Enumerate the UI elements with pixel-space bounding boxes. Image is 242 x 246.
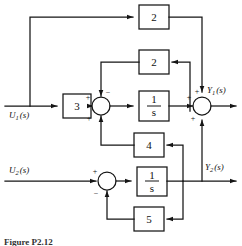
block-integrator-bottom: 1 s <box>137 167 167 196</box>
block-gain-cross-coupling: 4 <box>134 133 164 157</box>
summing-junction-3: + − <box>93 167 116 198</box>
wire-gain5-to-sum3 <box>107 191 134 219</box>
wire-top-gain-to-sum2 <box>169 17 202 92</box>
sum2-sign-bottom: + <box>191 114 196 123</box>
block-label-integrator-bottom-num: 1 <box>149 169 155 181</box>
wire-y2-tap-to-gain5 <box>167 181 183 219</box>
wire-y1int-tap-to-inner-gain <box>172 62 190 111</box>
sum-circle-3 <box>98 172 116 190</box>
figure-block-diagram: 2 2 3 <box>0 0 242 246</box>
block-gain-inner-feedback: 2 <box>139 50 169 74</box>
signal-label-u2: U2(s) <box>9 165 29 176</box>
block-label-integrator-top-den: s <box>152 106 156 118</box>
sum1-sign-bottom: + <box>87 114 92 123</box>
sum-circle-1 <box>92 97 110 115</box>
block-label-gain-3: 3 <box>74 100 80 112</box>
block-label-gain-4: 4 <box>146 139 152 151</box>
sum-circle-2 <box>193 97 211 115</box>
signal-label-y2: Y2(s) <box>205 162 224 173</box>
signal-label-y1: Y1(s) <box>207 85 226 96</box>
block-label-integrator-bottom-den: s <box>150 182 154 194</box>
block-gain-bottom-feedback: 5 <box>134 207 164 231</box>
sum2-sign-top: + <box>195 87 200 96</box>
figure-caption: Figure P2.12 <box>4 237 53 246</box>
sum3-sign-left: + <box>93 167 98 176</box>
signal-label-u1: U1(s) <box>9 110 29 121</box>
wire-gain4-to-sum1 <box>101 116 134 145</box>
block-label-gain-2-top: 2 <box>151 11 157 23</box>
block-gain-feedforward-top: 2 <box>139 5 169 29</box>
sum3-sign-bottom: − <box>94 189 99 198</box>
block-label-gain-2-inner: 2 <box>151 56 157 68</box>
wire-y2-tap-to-gain4 <box>167 145 183 181</box>
sum2-sign-left: + <box>187 93 192 102</box>
block-label-gain-5: 5 <box>146 213 152 225</box>
block-integrator-top: 1 s <box>139 91 169 121</box>
sum1-sign-left: + <box>86 93 91 102</box>
diagram-canvas: 2 2 3 <box>0 0 242 246</box>
block-label-integrator-top-num: 1 <box>151 93 157 105</box>
sum1-sign-top: − <box>106 88 111 97</box>
